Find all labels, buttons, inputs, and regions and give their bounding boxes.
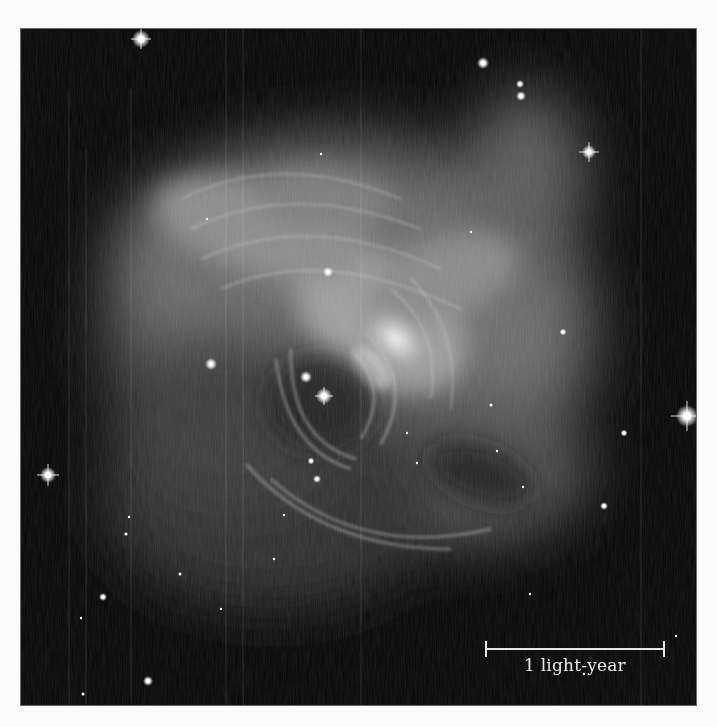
scale-bar-label: 1 light-year <box>485 655 665 675</box>
nebula-image: 1 light-year <box>20 28 697 706</box>
scale-bar-line <box>485 648 665 650</box>
nebula-graphic <box>21 29 697 706</box>
